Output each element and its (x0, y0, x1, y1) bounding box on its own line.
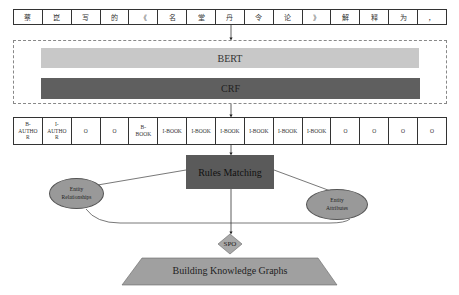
entity-relationships-line1: Entity (62, 186, 92, 193)
token-cell: 释 (360, 10, 389, 24)
tag-cell: I-BOOK (274, 118, 303, 144)
knowledge-graph-label: Building Knowledge Graphs (150, 260, 310, 280)
token-cell: 堂 (187, 10, 216, 24)
tag-cell: I-BOOK (216, 118, 245, 144)
entity-relationships-ellipse: Entity Relationships (49, 178, 104, 209)
input-token-row: 蔡 崑 写 的 《 名 堂 丹 令 论 》 解 释 为 ， (13, 9, 447, 25)
tag-cell: B- BOOK (129, 118, 158, 144)
entity-attributes-line1: Entity (326, 197, 348, 204)
tag-cell: B- AUTHO R (14, 118, 43, 144)
token-cell: 的 (101, 10, 130, 24)
token-cell: 》 (303, 10, 332, 24)
bert-layer: BERT (41, 48, 419, 68)
token-cell: 写 (72, 10, 101, 24)
token-cell: 为 (389, 10, 418, 24)
rules-matching-box: Rules Matching (186, 155, 274, 189)
token-cell: 丹 (216, 10, 245, 24)
tag-cell: O (331, 118, 360, 144)
token-cell: 解 (331, 10, 360, 24)
tag-cell: O (389, 118, 418, 144)
crf-layer: CRF (41, 78, 420, 99)
tag-cell: O (418, 118, 446, 144)
token-cell: 《 (129, 10, 158, 24)
token-cell: 论 (274, 10, 303, 24)
token-cell: 蔡 (14, 10, 43, 24)
tag-label-row: B- AUTHO R I- AUTHO R O O B- BOOK I-BOOK… (13, 117, 447, 145)
tag-cell: I- AUTHO R (43, 118, 72, 144)
tag-cell: O (72, 118, 101, 144)
spo-label: SPO (218, 237, 242, 251)
tag-cell: I-BOOK (158, 118, 187, 144)
tag-cell: I-BOOK (303, 118, 332, 144)
tag-cell: I-BOOK (187, 118, 216, 144)
tag-cell: I-BOOK (245, 118, 274, 144)
token-cell: 崑 (43, 10, 72, 24)
token-cell: ， (418, 10, 446, 24)
token-cell: 名 (158, 10, 187, 24)
entity-attributes-line2: Attributes (326, 205, 348, 212)
entity-relationships-line2: Relationships (62, 194, 92, 201)
tag-cell: O (101, 118, 130, 144)
tag-cell: O (360, 118, 389, 144)
token-cell: 令 (245, 10, 274, 24)
entity-attributes-ellipse: Entity Attributes (306, 189, 368, 220)
